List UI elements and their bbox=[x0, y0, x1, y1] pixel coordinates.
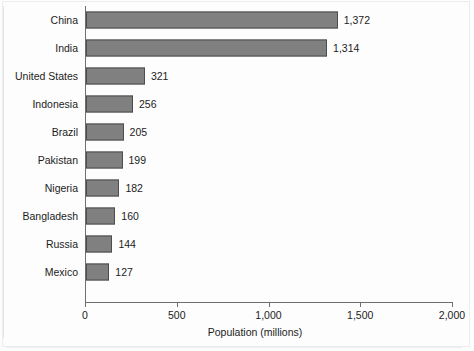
x-axis-title-label: Population (millions) bbox=[208, 326, 303, 338]
x-axis-tick bbox=[177, 302, 178, 307]
bar-category-label: Nigeria bbox=[45, 182, 78, 194]
bar-value-label: 321 bbox=[151, 70, 169, 82]
bar bbox=[86, 180, 119, 197]
bar-row: Pakistan199 bbox=[0, 146, 474, 174]
x-axis-tick bbox=[85, 302, 86, 307]
bar-value-label: 144 bbox=[118, 238, 136, 250]
bar bbox=[86, 124, 124, 141]
bar-row: Mexico127 bbox=[0, 258, 474, 286]
bar-category-label: Mexico bbox=[45, 266, 78, 278]
bar bbox=[86, 12, 338, 29]
bar-category-label: Pakistan bbox=[38, 154, 78, 166]
bar-value-label: 1,314 bbox=[333, 42, 359, 54]
bar-category-label: Indonesia bbox=[32, 98, 78, 110]
bar bbox=[86, 208, 115, 225]
plot-area: China1,372India1,314United States321Indo… bbox=[0, 0, 474, 351]
bar-value-label: 160 bbox=[121, 210, 139, 222]
x-axis-title: Population (millions) bbox=[0, 326, 474, 338]
bar-row: Indonesia256 bbox=[0, 90, 474, 118]
bar-value-label: 1,372 bbox=[344, 14, 370, 26]
bar-value-label: 182 bbox=[125, 182, 143, 194]
x-axis-tick-label: 1,500 bbox=[347, 309, 373, 321]
bar-value-label: 205 bbox=[130, 126, 148, 138]
bar-row: China1,372 bbox=[0, 6, 474, 34]
bar-row: United States321 bbox=[0, 62, 474, 90]
bar bbox=[86, 152, 123, 169]
bar-category-label: Russia bbox=[46, 238, 78, 250]
bar-row: India1,314 bbox=[0, 34, 474, 62]
bar-value-label: 127 bbox=[115, 266, 133, 278]
bar-category-label: Bangladesh bbox=[23, 210, 78, 222]
x-axis-tick bbox=[452, 302, 453, 307]
bar bbox=[86, 264, 109, 281]
bar-category-label: United States bbox=[15, 70, 78, 82]
bar-value-label: 199 bbox=[129, 154, 147, 166]
x-axis-tick bbox=[269, 302, 270, 307]
x-axis-tick-label: 2,000 bbox=[439, 309, 465, 321]
x-axis-tick-label: 0 bbox=[82, 309, 88, 321]
bar-category-label: India bbox=[55, 42, 78, 54]
bar-row: Russia144 bbox=[0, 230, 474, 258]
bar-category-label: Brazil bbox=[52, 126, 78, 138]
bar-row: Brazil205 bbox=[0, 118, 474, 146]
bar-value-label: 256 bbox=[139, 98, 157, 110]
bar bbox=[86, 68, 145, 85]
bar-category-label: China bbox=[51, 14, 78, 26]
bar bbox=[86, 236, 112, 253]
x-axis-tick-label: 500 bbox=[168, 309, 186, 321]
x-axis-tick bbox=[360, 302, 361, 307]
bar bbox=[86, 40, 327, 57]
bar bbox=[86, 96, 133, 113]
x-axis-tick-label: 1,000 bbox=[255, 309, 281, 321]
bar-row: Nigeria182 bbox=[0, 174, 474, 202]
bar-chart-figure: China1,372India1,314United States321Indo… bbox=[0, 0, 474, 351]
bar-row: Bangladesh160 bbox=[0, 202, 474, 230]
